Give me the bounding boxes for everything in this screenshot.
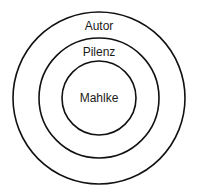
label-mahlke: Mahlke: [80, 91, 119, 105]
label-autor: Autor: [85, 19, 114, 33]
concentric-circle-diagram: Autor Pilenz Mahlke: [0, 0, 198, 196]
label-pilenz: Pilenz: [83, 45, 116, 59]
